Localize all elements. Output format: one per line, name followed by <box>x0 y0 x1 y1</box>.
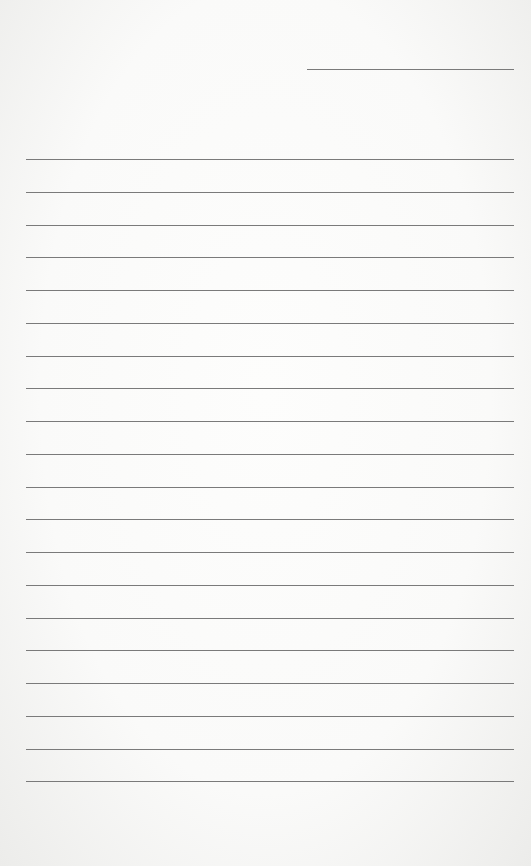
lined-paper-page <box>0 0 531 866</box>
ruled-line <box>26 683 514 684</box>
header-name-line <box>307 69 514 70</box>
ruled-line <box>26 585 514 586</box>
ruled-line <box>26 290 514 291</box>
ruled-line <box>26 781 514 782</box>
ruled-line <box>26 225 514 226</box>
ruled-line <box>26 650 514 651</box>
ruled-line <box>26 716 514 717</box>
ruled-line <box>26 487 514 488</box>
ruled-line <box>26 192 514 193</box>
ruled-line <box>26 323 514 324</box>
ruled-line <box>26 519 514 520</box>
ruled-line <box>26 552 514 553</box>
ruled-line <box>26 388 514 389</box>
ruled-line <box>26 749 514 750</box>
ruled-line <box>26 421 514 422</box>
ruled-line <box>26 454 514 455</box>
ruled-line <box>26 618 514 619</box>
ruled-line <box>26 257 514 258</box>
ruled-line <box>26 159 514 160</box>
ruled-line <box>26 356 514 357</box>
